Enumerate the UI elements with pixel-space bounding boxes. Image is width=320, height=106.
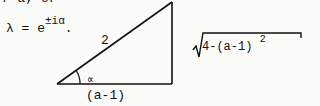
hypotenuse-label: 2: [101, 33, 109, 48]
angle-alpha-label: ∝: [87, 73, 94, 86]
angle-arc: [77, 71, 81, 84]
hypotenuse-line: [57, 2, 172, 84]
radicand: 4-(a-1): [202, 40, 252, 54]
base-label: (a-1): [86, 88, 125, 103]
radicand-power: 2: [260, 34, 266, 45]
height-expression: 4-(a-1) 2: [202, 37, 266, 54]
